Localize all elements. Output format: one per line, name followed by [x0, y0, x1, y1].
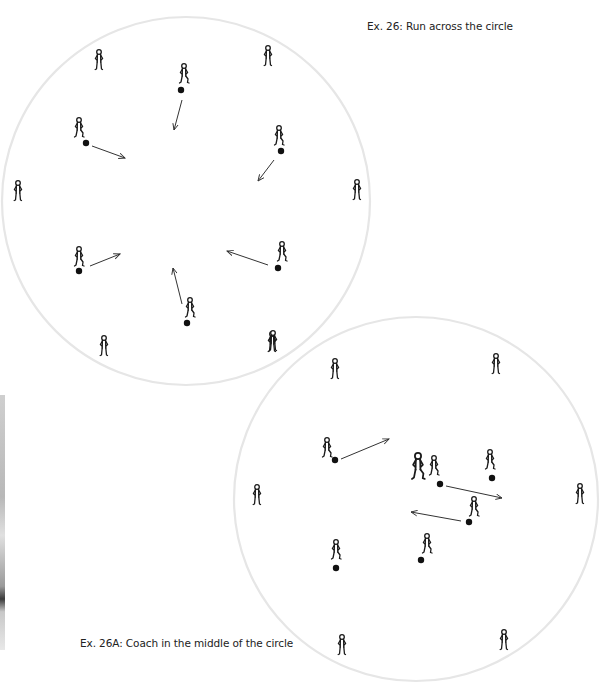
- dribbling-player-icon: [278, 242, 288, 261]
- dribbling-player-icon: [423, 534, 433, 553]
- outer-player-icon: [492, 354, 499, 374]
- dribbling-player-icon: [75, 118, 85, 137]
- outer-player-icon: [264, 46, 271, 66]
- ball-icon: [278, 148, 284, 154]
- ball-icon: [178, 87, 184, 93]
- outer-player-icon: [576, 484, 583, 504]
- dribbling-player-icon: [75, 247, 85, 266]
- run-direction-arrow-icon: [411, 512, 461, 521]
- ball-icon: [76, 268, 82, 274]
- ball-icon: [466, 519, 472, 525]
- caption-ex26a: Ex. 26A: Coach in the middle of the circ…: [80, 637, 293, 649]
- figure-layer: [14, 46, 583, 655]
- run-direction-arrow-icon: [258, 160, 274, 181]
- arrow-layer: [90, 100, 502, 521]
- drill-diagram-canvas: [0, 0, 608, 685]
- coach-icon: [412, 453, 425, 479]
- outer-player-icon: [100, 336, 107, 356]
- outer-player-icon: [14, 181, 21, 201]
- outer-player-icon: [95, 50, 102, 70]
- dribbling-player-icon: [275, 126, 285, 145]
- outer-player-icon: [331, 359, 338, 379]
- ball-icon: [275, 265, 281, 271]
- dribbling-player-icon: [430, 456, 440, 475]
- ball-icon: [437, 481, 443, 487]
- run-direction-arrow-icon: [174, 100, 182, 130]
- ball-icon: [332, 457, 338, 463]
- dribbling-player-icon: [470, 497, 480, 516]
- playing-circle-ex26a: [234, 317, 598, 681]
- dribbling-player-icon: [180, 64, 190, 83]
- run-direction-arrow-icon: [90, 254, 120, 266]
- outer-player-icon: [269, 331, 276, 351]
- outer-player-icon: [353, 180, 360, 200]
- dribbling-player-icon: [332, 540, 342, 559]
- dribbling-player-icon: [323, 438, 333, 457]
- dribbling-player-icon: [486, 450, 496, 469]
- ball-icon: [489, 475, 495, 481]
- outer-player-icon: [500, 630, 507, 650]
- ball-icon: [333, 565, 339, 571]
- run-direction-arrow-icon: [341, 439, 389, 459]
- outer-player-icon: [338, 635, 345, 655]
- dribbling-player-icon: [186, 298, 196, 317]
- run-direction-arrow-icon: [92, 146, 125, 158]
- ball-icon: [418, 557, 424, 563]
- circle-layer: [2, 17, 598, 681]
- caption-ex26: Ex. 26: Run across the circle: [367, 20, 513, 32]
- ball-icon: [184, 320, 190, 326]
- run-direction-arrow-icon: [227, 251, 268, 265]
- outer-player-icon: [253, 485, 260, 505]
- ball-icon: [83, 140, 89, 146]
- run-direction-arrow-icon: [173, 268, 182, 304]
